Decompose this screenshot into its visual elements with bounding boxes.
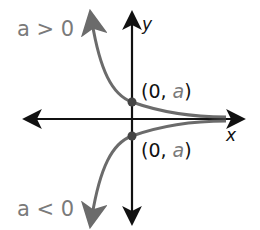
x-axis-label: x [225, 125, 237, 145]
intercept-dot-upper [128, 98, 137, 107]
exponential-diagram: y x a > 0 a < 0 (0, a) (0, a) [0, 0, 260, 230]
point-label-upper: (0, a) [141, 80, 192, 102]
curve-a-positive [92, 22, 226, 117]
point-label-lower-close: ) [184, 139, 191, 161]
curve-a-negative [92, 121, 226, 216]
point-label-upper-open: (0, [141, 80, 173, 102]
point-label-lower-var: a [173, 139, 185, 161]
point-label-upper-var: a [173, 80, 185, 102]
condition-label-negative: a < 0 [17, 197, 74, 221]
point-label-upper-close: ) [184, 80, 191, 102]
point-label-lower: (0, a) [141, 139, 192, 161]
condition-label-positive: a > 0 [17, 17, 74, 41]
y-axis-label: y [141, 14, 153, 34]
point-label-lower-open: (0, [141, 139, 173, 161]
intercept-dot-lower [128, 132, 137, 141]
